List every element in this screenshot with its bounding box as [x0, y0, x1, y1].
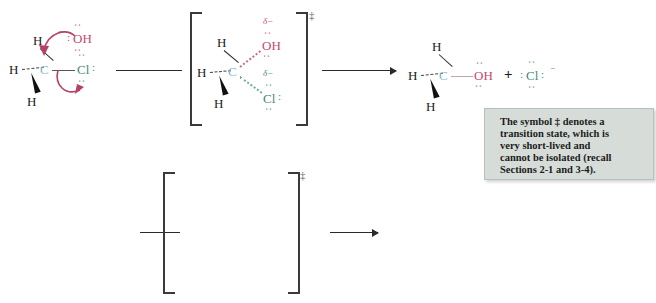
partial-charge-chlorine: δ− [263, 69, 273, 78]
atom-label-Cl: Cl [526, 69, 538, 82]
lone-pair-dots-o-bottom: : [474, 84, 485, 88]
model-product [380, 160, 580, 303]
atom-label-H: H [217, 36, 226, 49]
plus-sign: + [504, 67, 513, 82]
atom-label-H: H [432, 40, 441, 53]
bond-c-h-wedge [217, 75, 228, 96]
partial-bond-c-cl [239, 76, 262, 93]
reaction-arrow-1 [322, 70, 396, 71]
bond-c-h-top [224, 50, 239, 63]
atom-label-C: C [439, 69, 448, 82]
double-dagger-symbol: ‡ [309, 10, 315, 21]
lone-pair-dots-cl-bottom: : [527, 85, 538, 89]
atom-label-H: H [426, 100, 435, 113]
bracket-right [296, 12, 308, 126]
lone-pair-dots-cl-right: : [541, 69, 545, 80]
note-line: very short-lived and [500, 140, 590, 153]
note-line: The symbol ‡ denotes a [500, 116, 604, 129]
atom-label-Cl: Cl [263, 92, 275, 105]
lone-pair-dots-cl-bottom: : [264, 107, 275, 111]
electron-arrow-nucleophile-attack [30, 24, 80, 69]
chloride-negative-charge: − [550, 64, 555, 73]
reaction-line-1 [116, 70, 182, 71]
atom-label-OH: OH [262, 39, 281, 52]
lewis-reactant: H H H C : Cl : : − : : OH : [0, 0, 170, 120]
bracket-left [163, 172, 175, 294]
atom-label-H: H [27, 95, 36, 108]
lone-pair-dots-o-top: : [475, 61, 486, 65]
bracket-right [288, 172, 300, 294]
bond-c-h-top [439, 54, 453, 67]
atom-label-H: H [408, 69, 417, 82]
lone-pair-dots-cl-right: : [278, 91, 282, 102]
lone-pair-dots-o-top: : [263, 31, 274, 35]
figure-canvas: H H H C : Cl : : − : : OH : [0, 0, 656, 303]
double-dagger-symbol: ‡ [300, 170, 306, 181]
partial-charge-oxygen: δ− [263, 17, 273, 26]
lone-pair-dots-cl-left: : [520, 69, 524, 80]
atom-label-C: C [228, 65, 237, 78]
lewis-product: H H H C : OH : + : : Cl : : − [400, 0, 580, 120]
note-line: transition state, which is [500, 128, 609, 141]
atom-label-H: H [214, 97, 223, 110]
lone-pair-dots-o-bottom: : [262, 54, 273, 58]
reaction-arrow-2 [330, 232, 378, 233]
bond-c-o [451, 76, 473, 77]
lewis-transition-state: ‡ H H H C δ− : OH : δ− : Cl : : [186, 0, 321, 135]
model-reactant [0, 160, 150, 303]
lone-pair-dots-cl-top: : [264, 83, 275, 87]
atom-label-H: H [197, 66, 206, 79]
model-transition-state: ‡ [160, 160, 320, 303]
atom-label-H: H [9, 63, 18, 76]
lone-pair-dots-cl-top: : [527, 60, 538, 64]
bond-c-h-wedge [428, 78, 439, 99]
electron-arrow-leaving-group [52, 68, 94, 102]
atom-label-OH: OH [474, 69, 493, 82]
partial-bond-c-o [239, 50, 261, 68]
